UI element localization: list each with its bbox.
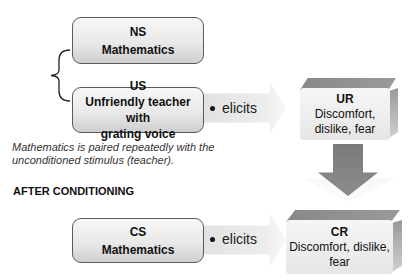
after-conditioning-heading: AFTER CONDITIONING — [13, 185, 134, 197]
ns-label: NS — [130, 24, 147, 40]
us-text-line1: Unfriendly teacher with — [73, 94, 203, 126]
bullet-icon — [210, 106, 215, 111]
cs-label: CS — [130, 224, 147, 240]
bullet-icon — [210, 237, 215, 242]
ur-block: UR Discomfort, dislike, fear — [300, 78, 400, 140]
us-box: US Unfriendly teacher with grating voice — [72, 87, 204, 133]
ur-side-face — [389, 88, 398, 138]
cr-front-face: CR Discomfort, dislike, fear — [286, 220, 393, 274]
brace-icon — [48, 48, 74, 103]
elicits-text: elicits — [222, 231, 257, 247]
pairing-caption: Mathematics is paired repeatedly with th… — [12, 141, 214, 167]
elicits-label-before: elicits — [210, 100, 257, 116]
caption-line2: unconditioned stimulus (teacher). — [12, 154, 214, 167]
cr-block: CR Discomfort, dislike, fear — [286, 210, 404, 274]
cr-label: CR — [331, 225, 348, 240]
elicits-text: elicits — [222, 100, 257, 116]
ns-text: Mathematics — [102, 42, 175, 58]
cs-text: Mathematics — [102, 242, 175, 258]
us-text-line2: grating voice — [101, 126, 176, 142]
ns-box: NS Mathematics — [72, 17, 204, 64]
ur-text-line1: Discomfort, — [315, 107, 376, 122]
cr-text-line2: fear — [329, 255, 350, 270]
elicits-label-after: elicits — [210, 231, 257, 247]
ur-label: UR — [336, 92, 353, 107]
ur-front-face: UR Discomfort, dislike, fear — [300, 88, 390, 140]
cr-side-face — [392, 220, 402, 272]
ur-text-line2: dislike, fear — [315, 122, 376, 137]
cr-text-line1: Discomfort, dislike, — [289, 240, 390, 255]
cs-box: CS Mathematics — [72, 218, 204, 263]
caption-line1: Mathematics is paired repeatedly with th… — [12, 141, 214, 154]
us-label: US — [130, 78, 147, 94]
